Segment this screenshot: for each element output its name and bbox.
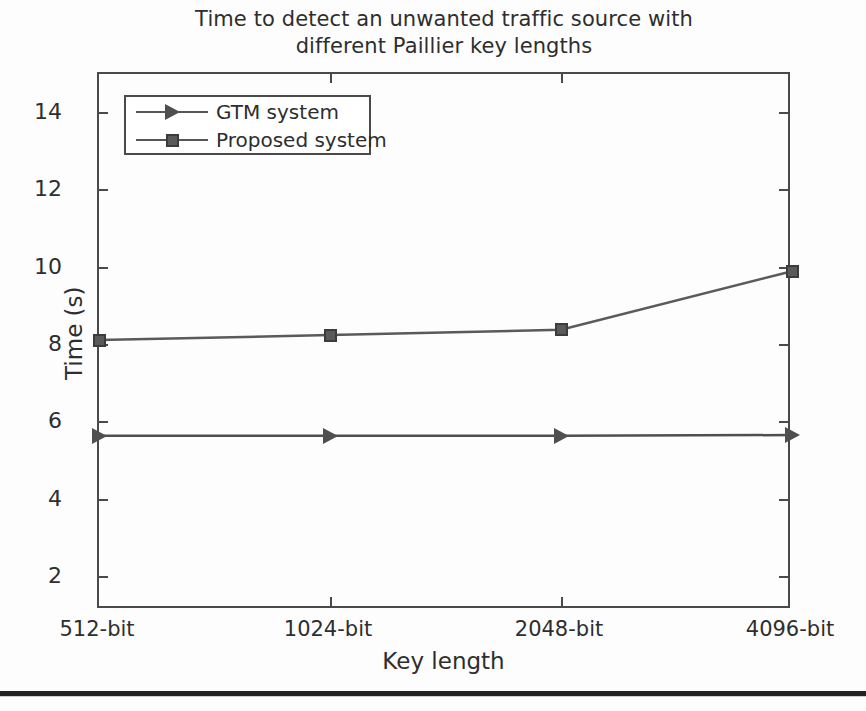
legend-item-proposed: Proposed system (126, 126, 369, 154)
y-tick-label-12: 12 (12, 176, 62, 201)
plot-inner: GTM system Proposed system (99, 74, 788, 606)
page-bottom-rule-thin (0, 696, 866, 697)
page-canvas: Time to detect an unwanted traffic sourc… (0, 0, 866, 711)
y-tick-label-10: 10 (12, 254, 62, 279)
legend-label-proposed: Proposed system (216, 128, 387, 152)
y-tick-label-4: 4 (12, 486, 62, 511)
y-tick-label-8: 8 (12, 331, 62, 356)
chart-legend: GTM system Proposed system (124, 95, 371, 155)
x-tick-label-4096: 4096-bit (710, 617, 866, 641)
chart-title-line-2: different Paillier key lengths (97, 33, 791, 60)
legend-item-gtm: GTM system (126, 98, 369, 126)
chart-figure: Time to detect an unwanted traffic sourc… (0, 0, 866, 680)
y-tick-label-14: 14 (12, 99, 62, 124)
x-tick-label-2048: 2048-bit (479, 617, 639, 641)
triangle-right-icon (134, 98, 210, 126)
triangle-right-glyph (165, 104, 180, 120)
x-tick-label-512: 512-bit (17, 617, 177, 641)
x-tick-label-1024: 1024-bit (248, 617, 408, 641)
square-icon (134, 126, 210, 154)
chart-title-line-1: Time to detect an unwanted traffic sourc… (195, 7, 693, 31)
chart-title: Time to detect an unwanted traffic sourc… (97, 6, 791, 60)
y-tick-label-6: 6 (12, 408, 62, 433)
y-axis-title: Time (s) (61, 286, 87, 380)
y-tick-label-2: 2 (12, 563, 62, 588)
data-point-proposed-system-2048-bit (555, 323, 568, 336)
x-axis-title: Key length (97, 648, 790, 674)
legend-label-gtm: GTM system (216, 100, 339, 124)
data-point-proposed-system-1024-bit (324, 329, 337, 342)
plot-area: Time (s) (97, 72, 790, 608)
square-glyph (166, 134, 179, 147)
data-point-proposed-system-4096-bit (786, 265, 799, 278)
data-point-proposed-system-512-bit (93, 334, 106, 347)
